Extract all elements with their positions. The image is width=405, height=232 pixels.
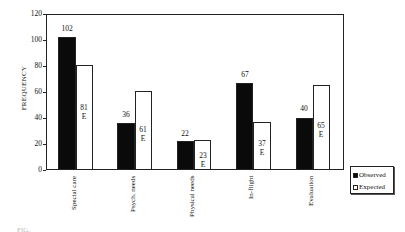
legend-item-observed: Observed — [353, 169, 391, 181]
expected-swatch-icon — [353, 185, 358, 190]
y-tick-100: 100 — [18, 36, 42, 44]
y-tick-20: 20 — [18, 140, 42, 148]
value-label-observed: 36 — [116, 111, 136, 119]
y-tick-mark — [43, 92, 46, 93]
legend-label-expected: Expected — [359, 183, 385, 191]
value-label-observed: 40 — [294, 105, 314, 113]
y-tick-mark — [43, 118, 46, 119]
expected-marker: E — [76, 112, 92, 122]
y-tick-mark — [43, 66, 46, 67]
y-tick-mark — [43, 170, 46, 171]
y-tick-60: 60 — [18, 88, 42, 96]
y-tick-40: 40 — [18, 114, 42, 122]
expected-marker: E — [195, 160, 211, 170]
legend: Observed Expected — [350, 166, 394, 194]
expected-marker: E — [254, 148, 270, 158]
bar-observed-physical-needs — [177, 141, 194, 170]
x-label-psych-needs: Psych. needs — [129, 176, 137, 212]
figure-caption: FIG. — [17, 226, 30, 232]
expected-marker: E — [313, 130, 329, 140]
bar-observed-evaluation — [296, 118, 313, 170]
y-tick-mark — [43, 14, 46, 15]
legend-item-expected: Expected — [353, 181, 391, 193]
legend-label-observed: Observed — [359, 171, 386, 179]
value-label-observed: 22 — [175, 130, 195, 138]
y-tick-120: 120 — [18, 10, 42, 18]
y-tick-mark — [43, 144, 46, 145]
value-label-observed: 102 — [57, 25, 77, 33]
observed-swatch-icon — [353, 173, 358, 178]
bar-observed-in-flight — [236, 83, 253, 170]
x-label-special-care: Special care — [70, 176, 78, 210]
x-label-evaluation: Evaluation — [307, 176, 315, 206]
y-tick-80: 80 — [18, 62, 42, 70]
bar-observed-special-care — [58, 37, 76, 170]
y-tick-0: 0 — [18, 166, 42, 174]
x-label-physical-needs: Physical needs — [188, 176, 196, 217]
value-label-observed: 67 — [235, 71, 255, 79]
bar-observed-psych-needs — [117, 123, 135, 170]
y-tick-mark — [43, 40, 46, 41]
x-label-in-flight: In-flight — [247, 176, 255, 199]
expected-marker: E — [135, 134, 151, 144]
